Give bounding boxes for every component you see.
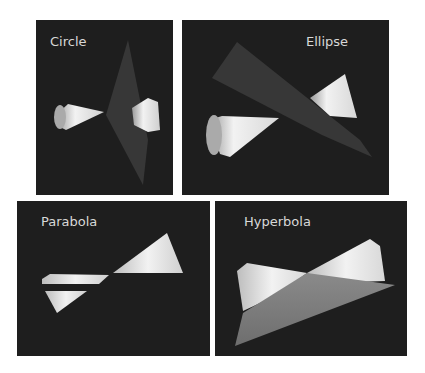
circle-panel: Circle (36, 20, 173, 195)
panel-label: Ellipse (306, 34, 348, 49)
cone-right (113, 233, 183, 273)
cone-left-base (54, 105, 66, 129)
ellipse-illustration (182, 20, 389, 195)
panel-label: Circle (50, 34, 87, 49)
cone-left-lower (45, 291, 87, 313)
hyperbola-panel: Hyperbola (215, 201, 407, 356)
cone-left-base (206, 115, 222, 155)
cone-left-upper (42, 274, 109, 284)
ellipse-panel: Ellipse (182, 20, 389, 195)
panel-label: Hyperbola (244, 214, 311, 229)
panel-label: Parabola (41, 214, 97, 229)
parabola-panel: Parabola (17, 201, 210, 356)
